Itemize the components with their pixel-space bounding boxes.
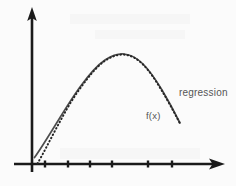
regression-label: regression [179,87,228,98]
curve-fx [35,54,181,158]
plot-canvas: regression f(x) [0,0,236,186]
y-axis [27,7,37,172]
fx-label: f(x) [146,110,161,121]
regression-figure: regression f(x) [0,0,236,186]
